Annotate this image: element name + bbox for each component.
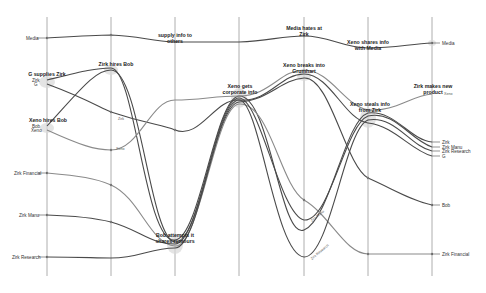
storyline-zirk-financial	[47, 104, 432, 254]
start-label-zirk-financial: Zirk Financial	[14, 171, 41, 176]
storyline-diagram: Media Zirk G Bob Xeno Zirk Financial Zir…	[0, 0, 486, 293]
end-labels: Media Xeno Zirk Zirk Manu Zirk Research …	[432, 41, 471, 257]
storylines	[47, 35, 432, 258]
end-label-zirk-financial: Zirk Financial	[442, 252, 469, 257]
event-labels: G supplies Zirk Zirk hires Bob supply in…	[28, 25, 453, 244]
start-label-xeno: Xeno	[31, 128, 42, 133]
event-label-bob-rumours-2: shares rumours	[155, 238, 194, 244]
event-highlights	[39, 40, 436, 254]
end-label-bob: Bob	[442, 203, 451, 208]
start-label-zirk-research: Zirk Research	[12, 255, 41, 260]
event-label-supply-info-2: others	[167, 38, 183, 44]
event-label-xeno-hires-bob: Xeno hires Bob	[29, 117, 67, 123]
end-label-zirk-research: Zirk Research	[442, 149, 471, 154]
event-label-xeno-breaks-2: Grumhart	[292, 68, 316, 74]
start-labels: Media Zirk G Bob Xeno Zirk Financial Zir…	[12, 36, 47, 260]
end-label-g: G	[442, 154, 446, 159]
end-label-media: Media	[442, 41, 455, 46]
inline-label-zirk: Zirk	[118, 117, 124, 121]
event-label-xeno-gets-2: corporate info	[223, 89, 258, 95]
nodes	[46, 34, 433, 258]
inline-label-xeno: Xeno	[116, 147, 124, 151]
event-label-g-supplies-zirk: G supplies Zirk	[28, 71, 66, 77]
event-label-xeno-steals-2: from Zirk	[359, 107, 382, 113]
start-label-g: G	[34, 82, 38, 87]
start-label-zirk-manu: Zirk Manu	[19, 213, 40, 218]
time-slice-grid	[47, 17, 432, 276]
event-label-zirk-product-2: product	[423, 89, 443, 95]
event-label-media-hates-2: Zirk	[299, 31, 309, 37]
end-label-xeno: Xeno	[444, 92, 452, 96]
event-label-zirk-hires-bob: Zirk hires Bob	[99, 61, 134, 67]
event-label-xeno-shares-2: with Media	[354, 45, 382, 51]
